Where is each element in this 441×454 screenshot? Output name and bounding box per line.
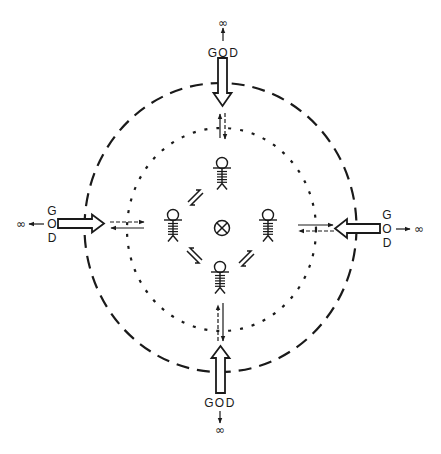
top-infinity: ∞ (218, 16, 228, 30)
top-letter-d: D (229, 46, 238, 60)
stick-figure-top-icon (213, 158, 231, 190)
left-infinity: ∞ (16, 217, 26, 231)
diagram-canvas: ∞ G O D G O D ∞ G O D ∞ G O D ∞ (0, 0, 441, 454)
bottom-block-arrow-icon (212, 346, 230, 393)
harpoon-pair-lower-right-icon (239, 251, 254, 266)
circled-x-icon (215, 221, 230, 236)
bottom-exchange-arrows (218, 303, 223, 341)
right-infinity: ∞ (414, 222, 424, 236)
bottom-god-label: G O D ∞ (204, 396, 234, 437)
diagram-svg: ∞ G O D G O D ∞ G O D ∞ G O D ∞ (0, 0, 441, 454)
top-god-label: ∞ G O D (208, 16, 238, 60)
left-block-arrow-icon (58, 215, 104, 233)
stick-figure-bottom-icon (211, 262, 229, 294)
left-letter-d: D (48, 231, 57, 245)
left-god-label: G O D ∞ (16, 204, 57, 245)
bottom-letter-o: O (215, 396, 224, 410)
stick-figure-right-icon (259, 210, 277, 242)
top-exchange-arrows (220, 113, 225, 139)
top-letter-g: G (208, 46, 217, 60)
bottom-infinity: ∞ (215, 423, 225, 437)
right-letter-d: D (383, 236, 392, 250)
stick-figure-left-icon (164, 210, 182, 242)
right-god-label: G O D ∞ (382, 208, 424, 250)
left-letter-o: O (47, 217, 56, 231)
top-letter-o: O (218, 46, 227, 60)
right-letter-o: O (382, 222, 391, 236)
harpoon-pair-upper-left-icon (188, 190, 203, 205)
right-letter-g: G (382, 208, 391, 222)
left-letter-g: G (47, 204, 56, 218)
bottom-letter-d: D (226, 396, 235, 410)
right-block-arrow-icon (335, 219, 380, 238)
bottom-letter-g: G (204, 396, 213, 410)
harpoon-pair-lower-left-icon (187, 248, 202, 263)
